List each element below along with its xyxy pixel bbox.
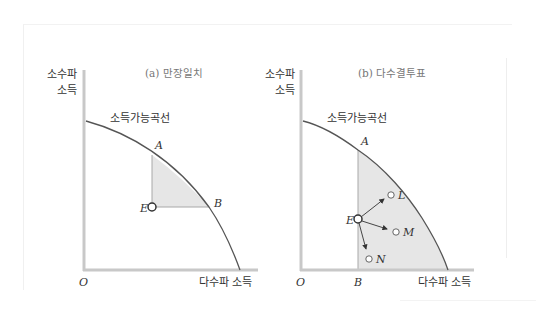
panel-a-origin-label: O: [79, 276, 88, 289]
panel-a-x-label: 다수파 소득: [199, 276, 253, 289]
panel-a-y-label-line2: 소득: [57, 84, 77, 97]
panel-a-pareto-region: [152, 155, 209, 207]
panel-b-point-l-marker: [388, 192, 394, 198]
panel-a-label-e: E: [139, 202, 148, 215]
panel-a-label-b: B: [213, 197, 222, 210]
panel-a-title: (a) 만장일치: [145, 67, 203, 79]
panel-b-point-m-marker: [393, 229, 399, 235]
panel-a-point-e-marker: [148, 203, 156, 211]
panel-a-curve-label: 소득가능곡선: [110, 112, 170, 125]
panel-a: [83, 70, 258, 271]
panel-b-label-b: B: [353, 276, 362, 289]
panel-b-label-l: L: [397, 189, 405, 202]
panel-b-y-label-line2: 소득: [275, 84, 295, 97]
panel-b-label-n: N: [375, 253, 386, 266]
panel-a-label-a: A: [154, 139, 163, 152]
panel-b-y-label-line1: 소수파: [265, 68, 295, 81]
panel-b-x-label: 다수파 소득: [418, 276, 472, 289]
panel-b-label-e: E: [345, 214, 354, 227]
panel-b-curve-label: 소득가능곡선: [327, 112, 387, 125]
panel-b-feasible-region: [358, 150, 448, 270]
panel-b-point-n-marker: [366, 256, 372, 262]
panel-b-point-e-marker: [354, 215, 362, 223]
panel-b-label-a: A: [360, 135, 369, 148]
panel-b-label-m: M: [402, 226, 415, 239]
panel-a-y-label-line1: 소수파: [47, 68, 77, 81]
panel-b-origin-label: O: [296, 276, 305, 289]
panel-b-title: (b) 다수결투표: [358, 67, 426, 79]
panel-b: [300, 70, 474, 271]
diagram-canvas: (a) 만장일치 소수파 소득 소득가능곡선 A B E O 다수파 소득 (b…: [0, 0, 536, 313]
